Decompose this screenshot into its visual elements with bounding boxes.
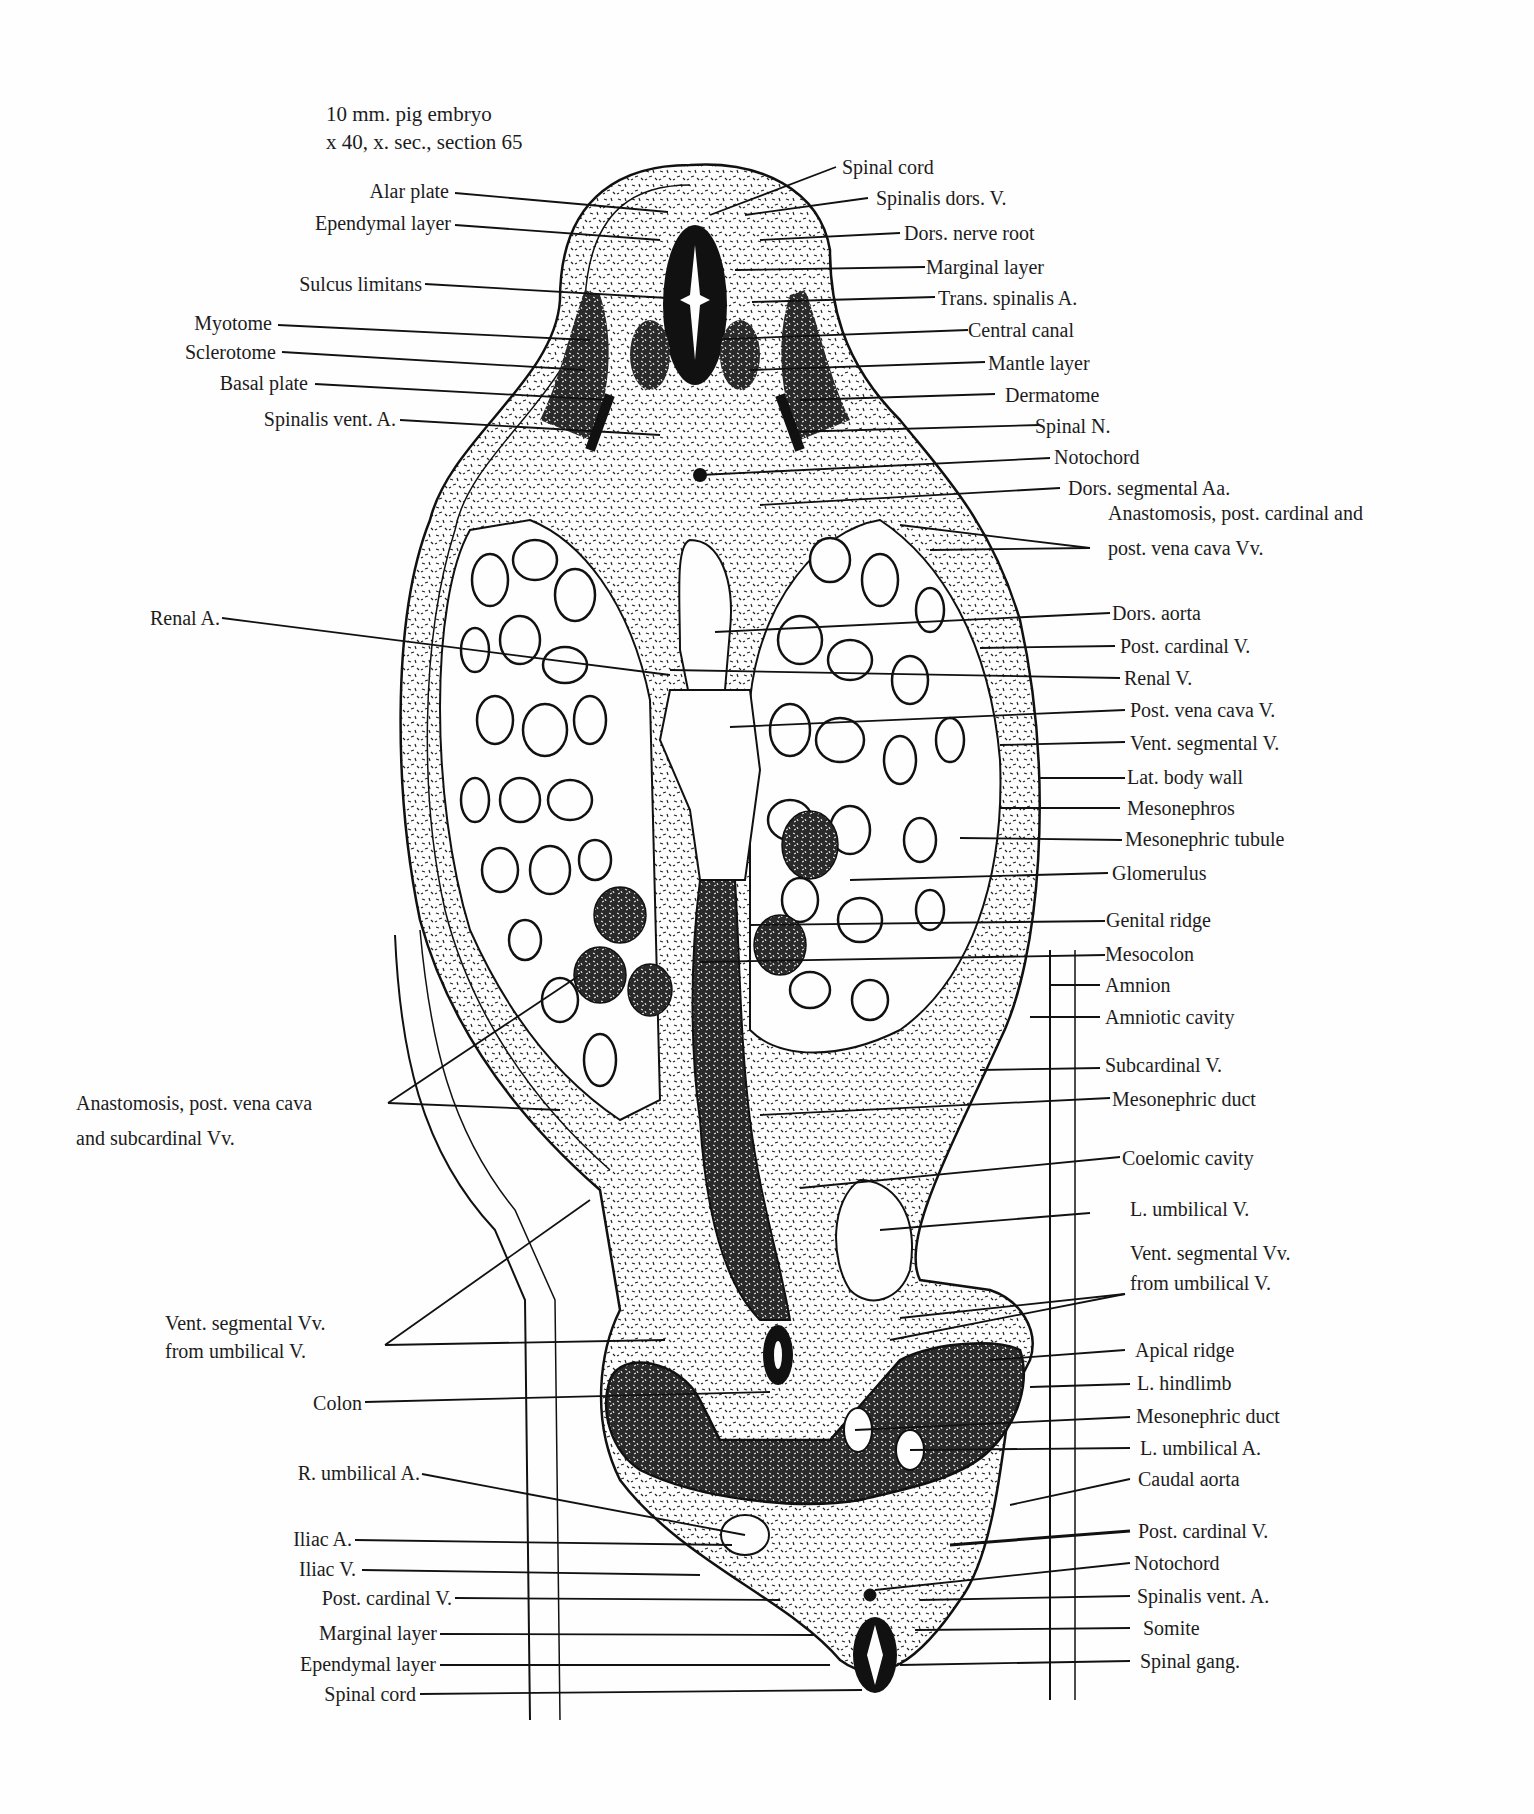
label-dors-segmental-aa: Dors. segmental Aa.	[1068, 475, 1230, 501]
label-sulcus-limitans: Sulcus limitans	[299, 271, 422, 297]
label-r-umbilical-a: R. umbilical A.	[298, 1460, 420, 1486]
colon-lumen	[774, 1341, 782, 1369]
label-renal-a: Renal A.	[150, 605, 220, 631]
label-iliac-v: Iliac V.	[299, 1556, 356, 1582]
label-notochord-bottom: Notochord	[1134, 1550, 1220, 1576]
label-colon: Colon	[313, 1390, 362, 1416]
label-spinal-n: Spinal N.	[1035, 413, 1111, 439]
label-anastomosis-pvc-subcardinal-line2: and subcardinal Vv.	[76, 1125, 235, 1151]
notochord-bottom-shape	[864, 1589, 876, 1601]
label-post-cardinal-v-left: Post. cardinal V.	[322, 1585, 452, 1611]
label-dors-nerve-root: Dors. nerve root	[904, 220, 1035, 246]
label-post-cardinal-v-bottom: Post. cardinal V.	[1138, 1518, 1268, 1544]
label-spinalis-vent-a-bottom: Spinalis vent. A.	[1137, 1583, 1269, 1609]
label-marginal-layer-top: Marginal layer	[926, 254, 1044, 280]
label-post-cardinal-v-top: Post. cardinal V.	[1120, 633, 1250, 659]
label-central-canal: Central canal	[968, 317, 1074, 343]
label-coelomic-cavity: Coelomic cavity	[1122, 1145, 1254, 1171]
label-dors-aorta: Dors. aorta	[1112, 600, 1201, 626]
label-vent-segmental-vv-right-line2: from umbilical V.	[1130, 1270, 1271, 1296]
label-mesonephric-tubule: Mesonephric tubule	[1125, 826, 1284, 852]
label-mesonephros: Mesonephros	[1127, 795, 1235, 821]
label-anastomosis-pc-pvc-line2: post. vena cava Vv.	[1108, 535, 1264, 561]
mantle-right	[720, 320, 760, 390]
label-mesocolon: Mesocolon	[1105, 941, 1194, 967]
label-ependymal-layer-bottom: Ependymal layer	[300, 1651, 436, 1677]
label-mantle-layer: Mantle layer	[988, 350, 1090, 376]
label-l-umbilical-a: L. umbilical A.	[1140, 1435, 1261, 1461]
label-sclerotome: Sclerotome	[185, 339, 276, 365]
figure-title-line1: 10 mm. pig embryo	[326, 100, 523, 128]
label-somite: Somite	[1143, 1615, 1200, 1641]
label-iliac-a: Iliac A.	[293, 1526, 352, 1552]
label-amniotic-cavity: Amniotic cavity	[1105, 1004, 1234, 1030]
label-l-umbilical-v: L. umbilical V.	[1130, 1196, 1249, 1222]
label-spinalis-vent-a-top: Spinalis vent. A.	[264, 406, 396, 432]
label-anastomosis-pvc-subcardinal-line1: Anastomosis, post. vena cava	[76, 1090, 312, 1116]
label-spinal-gang: Spinal gang.	[1140, 1648, 1240, 1674]
label-vent-segmental-v: Vent. segmental V.	[1130, 730, 1279, 756]
label-mesonephric-duct-top: Mesonephric duct	[1112, 1086, 1256, 1112]
label-vent-segmental-vv-right-line1: Vent. segmental Vv.	[1130, 1240, 1291, 1266]
label-renal-v: Renal V.	[1124, 665, 1192, 691]
label-marginal-layer-bottom: Marginal layer	[319, 1620, 437, 1646]
label-notochord-top: Notochord	[1054, 444, 1140, 470]
label-post-vena-cava-v: Post. vena cava V.	[1130, 697, 1275, 723]
label-genital-ridge: Genital ridge	[1106, 907, 1211, 933]
figure-title-line2: x 40, x. sec., section 65	[326, 128, 523, 156]
label-alar-plate: Alar plate	[370, 178, 449, 204]
label-trans-spinalis-a: Trans. spinalis A.	[938, 285, 1077, 311]
label-mesonephric-duct-bottom: Mesonephric duct	[1136, 1403, 1280, 1429]
label-spinal-cord-bottom: Spinal cord	[324, 1681, 416, 1707]
dors-aorta-shape	[679, 540, 731, 700]
label-lat-body-wall: Lat. body wall	[1127, 764, 1243, 790]
figure-page: 10 mm. pig embryo x 40, x. sec., section…	[0, 0, 1534, 1814]
label-vent-segmental-vv-left-line2: from umbilical V.	[165, 1338, 306, 1364]
label-glomerulus: Glomerulus	[1112, 860, 1206, 886]
label-amnion: Amnion	[1105, 972, 1171, 998]
mantle-left	[630, 320, 670, 390]
embryo-cross-section-drawing	[0, 0, 1534, 1814]
label-spinal-cord-top: Spinal cord	[842, 154, 934, 180]
label-vent-segmental-vv-left-line1: Vent. segmental Vv.	[165, 1310, 326, 1336]
label-dermatome: Dermatome	[1005, 382, 1099, 408]
label-basal-plate: Basal plate	[220, 370, 308, 396]
label-anastomosis-pc-pvc-line1: Anastomosis, post. cardinal and	[1108, 500, 1363, 526]
label-ependymal-layer-top: Ependymal layer	[315, 210, 451, 236]
label-subcardinal-v: Subcardinal V.	[1105, 1052, 1222, 1078]
label-l-hindlimb: L. hindlimb	[1137, 1370, 1231, 1396]
label-apical-ridge: Apical ridge	[1135, 1337, 1234, 1363]
label-myotome: Myotome	[194, 310, 272, 336]
figure-title: 10 mm. pig embryo x 40, x. sec., section…	[326, 100, 523, 156]
label-caudal-aorta: Caudal aorta	[1138, 1466, 1240, 1492]
label-spinalis-dors-v: Spinalis dors. V.	[876, 185, 1006, 211]
